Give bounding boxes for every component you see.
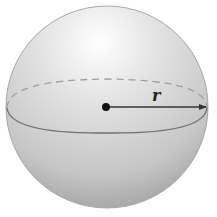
center-dot [102, 103, 110, 111]
sphere-diagram: r [0, 0, 217, 217]
